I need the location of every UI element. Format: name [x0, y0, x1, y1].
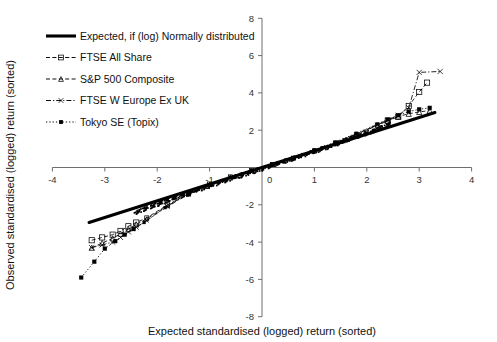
qq-plot-figure: -4-3-2-101234-8-6-4-22468Expected standa…	[0, 0, 497, 342]
y-tick-label: 4	[249, 87, 254, 98]
y-tick-label: -8	[246, 311, 254, 322]
y-axis-title: Observed standardised (logged) return (s…	[4, 60, 16, 290]
y-tick-label: -6	[246, 274, 254, 285]
y-tick-label: -4	[246, 237, 254, 248]
x-tick-label: 2	[364, 174, 369, 185]
x-tick-label: -3	[101, 174, 109, 185]
legend-label: FTSE All Share	[80, 51, 152, 63]
legend-item[interactable]: Tokyo SE (Topix)	[46, 116, 159, 128]
legend-item[interactable]: Expected, if (log) Normally distributed	[46, 30, 255, 42]
legend-label: FTSE W Europe Ex UK	[80, 94, 189, 106]
x-tick-label: 0	[267, 174, 272, 185]
y-tick-label: -2	[246, 199, 254, 210]
x-tick-label: 4	[469, 174, 474, 185]
y-tick-label: 6	[249, 50, 254, 61]
series-line	[81, 108, 429, 278]
x-tick-label: -4	[48, 174, 56, 185]
x-tick-label: 1	[312, 174, 317, 185]
legend-item[interactable]: S&P 500 Composite	[46, 73, 175, 85]
x-axis-title: Expected standardised (logged) return (s…	[148, 325, 376, 337]
qq-plot-svg: -4-3-2-101234-8-6-4-22468Expected standa…	[0, 0, 497, 342]
y-tick-label: 8	[249, 13, 254, 24]
legend-swatch-marker	[59, 120, 63, 124]
legend-item[interactable]: FTSE W Europe Ex UK	[46, 94, 189, 106]
y-tick-label: 2	[249, 125, 254, 136]
legend-label: S&P 500 Composite	[80, 73, 175, 85]
legend: Expected, if (log) Normally distributedF…	[46, 30, 255, 128]
legend-label: Expected, if (log) Normally distributed	[80, 30, 255, 42]
x-axis-ticks: -4-3-2-101234	[48, 168, 474, 185]
legend-item[interactable]: FTSE All Share	[46, 51, 152, 63]
legend-label: Tokyo SE (Topix)	[80, 116, 159, 128]
x-tick-label: 3	[417, 174, 422, 185]
x-tick-label: -2	[153, 174, 161, 185]
